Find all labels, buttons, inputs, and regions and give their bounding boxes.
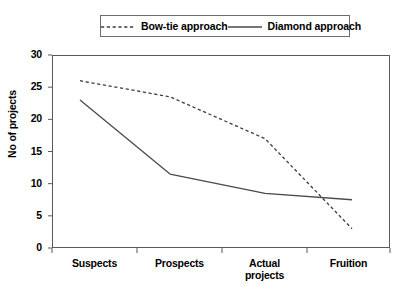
y-tick-label: 20 xyxy=(16,112,42,124)
y-tick-label: 5 xyxy=(16,209,42,221)
series-line-diamond xyxy=(80,100,352,200)
x-tick-label: Prospects xyxy=(134,257,226,269)
series-line-bow-tie xyxy=(80,81,352,229)
x-tick-label: Fruition xyxy=(303,257,395,269)
y-tick-label: 10 xyxy=(16,177,42,189)
x-tick-label: Suspects xyxy=(49,257,141,269)
x-tick-label: Actualprojects xyxy=(219,257,311,281)
chart-container: Bow-tie approach Diamond approach No of … xyxy=(0,0,405,295)
y-tick-label: 0 xyxy=(16,241,42,253)
y-tick-label: 30 xyxy=(16,48,42,60)
chart-canvas xyxy=(0,0,405,295)
y-tick-label: 15 xyxy=(16,145,42,157)
x-axis-ticks xyxy=(52,248,390,253)
series-lines xyxy=(80,81,352,229)
y-axis-ticks xyxy=(48,55,52,248)
y-tick-label: 25 xyxy=(16,80,42,92)
